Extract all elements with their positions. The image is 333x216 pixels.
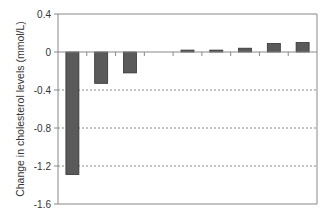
bar	[95, 52, 108, 83]
y-tick-label: -1.2	[34, 161, 52, 172]
y-axis-ticks: 0.40-0.4-0.8-1.2-1.6	[34, 9, 58, 210]
y-tick-label: -0.8	[34, 123, 52, 134]
bar	[296, 43, 309, 53]
bar	[123, 52, 136, 73]
plot-frame	[58, 14, 317, 204]
y-axis-label: Change in cholesterol levels (mmol/L)	[14, 21, 26, 197]
gridlines	[58, 90, 317, 166]
bar	[267, 43, 280, 52]
y-tick-label: -1.6	[34, 199, 52, 210]
y-tick-label: -0.4	[34, 85, 52, 96]
bar	[66, 52, 79, 175]
bars	[66, 43, 309, 175]
y-tick-label: 0	[45, 47, 51, 58]
bar	[239, 48, 252, 52]
y-tick-label: 0.4	[37, 9, 51, 20]
bar-chart: 0.40-0.4-0.8-1.2-1.6 Change in cholester…	[0, 0, 333, 216]
